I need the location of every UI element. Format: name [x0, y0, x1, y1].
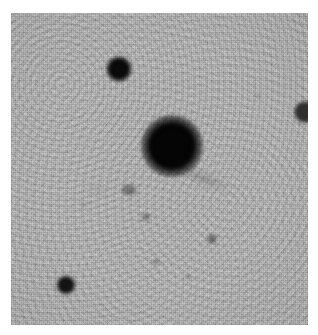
image-page [0, 0, 318, 335]
field-vignette [11, 13, 308, 325]
sky-field-cutout [11, 13, 308, 325]
